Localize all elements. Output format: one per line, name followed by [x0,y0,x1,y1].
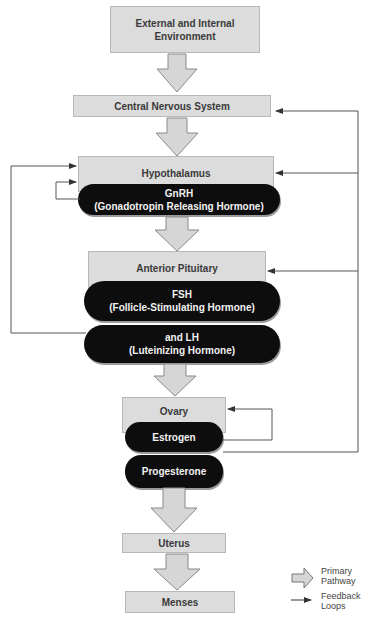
lh-pill: and LH (Luteinizing Hormone) [84,325,280,363]
hypothalamus-label: Hypothalamus [142,167,211,180]
primary-arrow-icon [157,54,197,92]
ovary-label: Ovary [160,405,188,418]
menses-label: Menses [162,596,199,609]
estrogen-label: Estrogen [152,431,195,444]
primary-arrow-icon [154,554,200,590]
menses-box: Menses [125,591,235,613]
anterior-pituitary-label: Anterior Pituitary [136,262,218,275]
environment-box: External and Internal Environment [110,6,260,53]
primary-arrow-icon [154,364,196,396]
legend-primary-label: Primary Pathway [321,566,365,586]
primary-arrows [151,54,200,590]
uterus-label: Uterus [158,537,190,550]
progesterone-label: Progesterone [142,465,206,478]
uterus-box: Uterus [122,533,226,553]
legend-feedback-label: Feedback Loops [321,591,367,611]
primary-arrow-icon [155,217,199,251]
primary-arrow-icon [151,488,197,532]
progesterone-pill: Progesterone [125,455,223,488]
cns-box: Central Nervous System [73,95,271,117]
fsh-pill: FSH (Follicle-Stimulating Hormone) [84,281,280,321]
lh-title: and LH [165,331,199,344]
gnrh-title: GnRH [165,187,193,200]
legend-primary-arrow-icon [292,568,313,588]
environment-label: External and Internal Environment [130,17,240,43]
gnrh-pill: GnRH (Gonadotropin Releasing Hormone) [78,184,280,215]
primary-arrow-icon [156,118,198,156]
cns-label: Central Nervous System [114,100,230,113]
gnrh-subtitle: (Gonadotropin Releasing Hormone) [94,200,263,213]
estrogen-pill: Estrogen [125,422,223,452]
fsh-title: FSH [172,288,192,301]
lh-subtitle: (Luteinizing Hormone) [129,344,235,357]
fsh-subtitle: (Follicle-Stimulating Hormone) [109,301,255,314]
